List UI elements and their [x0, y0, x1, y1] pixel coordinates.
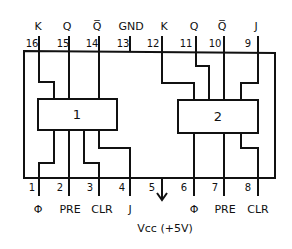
pin-number: 5 — [149, 182, 155, 193]
package-outline — [24, 51, 275, 178]
signal-label: PRE — [59, 203, 80, 216]
signal-label: Q̅ — [93, 20, 102, 33]
pin-number: 11 — [180, 38, 193, 49]
bottom-signal-labels: Φ PRE CLR J Φ PRE CLR — [34, 203, 269, 216]
vcc-arrow-icon — [157, 178, 167, 200]
ff1-bottom-wires — [39, 130, 130, 178]
flipflop-2-label: 2 — [214, 109, 222, 124]
signal-label: J — [253, 20, 257, 33]
signal-label: J — [127, 203, 131, 216]
pin-number: 6 — [181, 182, 187, 193]
signal-label: Q — [190, 20, 199, 33]
pin-number: 16 — [26, 38, 39, 49]
pin-number: 9 — [245, 38, 251, 49]
signal-label: CLR — [247, 203, 269, 216]
ff2-bottom-wires — [194, 133, 258, 178]
bottom-pin-numbers: 1 2 3 4 5 6 7 8 — [29, 182, 251, 193]
vcc-label: Vcc (+5V) — [137, 222, 192, 235]
pin-number: 7 — [212, 182, 218, 193]
ff2-top-wires — [162, 52, 258, 100]
signal-label: Φ — [34, 203, 43, 216]
ff1-top-wires — [39, 52, 99, 99]
signal-label: Q — [63, 20, 72, 33]
signal-label: GND — [118, 20, 143, 33]
signal-label: Q̅ — [218, 20, 227, 33]
pin-number: 4 — [119, 182, 125, 193]
signal-label: Φ — [190, 203, 199, 216]
signal-label: K — [160, 20, 168, 33]
signal-label: PRE — [214, 203, 235, 216]
top-pin-numbers: 16 15 14 13 12 11 10 9 — [26, 38, 252, 49]
signal-label: CLR — [91, 203, 113, 216]
top-signal-labels: K Q Q̅ GND K Q Q̅ J — [34, 20, 257, 33]
pin-number: 1 — [29, 182, 35, 193]
pin-number: 14 — [86, 38, 99, 49]
flipflop-1-label: 1 — [73, 107, 81, 122]
pin-number: 12 — [147, 38, 160, 49]
pin-number: 8 — [245, 182, 251, 193]
signal-label: K — [34, 20, 42, 33]
ic-pinout-diagram: K Q Q̅ GND K Q Q̅ J 16 15 14 13 12 11 10… — [0, 0, 292, 249]
pin-number: 2 — [57, 182, 63, 193]
pin-number: 10 — [209, 38, 222, 49]
pin-number: 3 — [87, 182, 93, 193]
pin-number: 13 — [117, 38, 130, 49]
pin-number: 15 — [57, 38, 70, 49]
